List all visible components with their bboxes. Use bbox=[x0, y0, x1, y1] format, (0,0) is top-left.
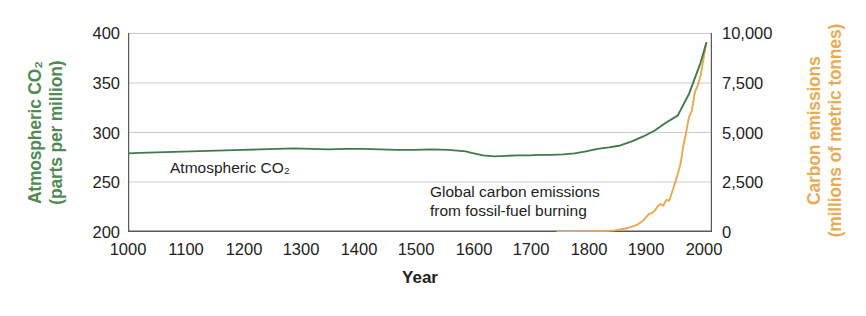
co2-series-annotation: Atmospheric CO₂ bbox=[170, 158, 290, 177]
plot-svg bbox=[128, 33, 712, 232]
left-axis-title: Atmospheric CO₂ (parts per million) bbox=[25, 23, 66, 243]
left-ytick-label-250: 250 bbox=[92, 173, 120, 192]
right-axis-title-line1: Carbon emissions bbox=[804, 18, 825, 244]
xtick-label-2000: 2000 bbox=[669, 240, 739, 259]
emissions-annotation-line1: Global carbon emissions bbox=[430, 182, 600, 201]
plot-area bbox=[128, 33, 712, 232]
co2-emissions-chart-figure: Atmospheric CO₂ (parts per million) Carb… bbox=[0, 0, 866, 316]
right-axis-title: Carbon emissions (millions of metric ton… bbox=[804, 18, 845, 244]
right-ytick-label-2500: 2,500 bbox=[722, 173, 763, 192]
emissions-annotation-line2: from fossil-fuel burning bbox=[430, 201, 600, 220]
x-axis-title: Year bbox=[128, 268, 712, 288]
emissions-series-annotation: Global carbon emissions from fossil-fuel… bbox=[430, 182, 600, 221]
left-axis-title-line1: Atmospheric CO₂ bbox=[25, 23, 46, 243]
left-ytick-label-300: 300 bbox=[92, 124, 120, 143]
right-axis-title-line2: (millions of metric tonnes) bbox=[825, 18, 846, 244]
co2-line bbox=[128, 43, 706, 156]
right-ytick-label-10000: 10,000 bbox=[722, 24, 772, 43]
left-ytick-label-400: 400 bbox=[92, 24, 120, 43]
left-axis-title-line2: (parts per million) bbox=[46, 23, 67, 243]
left-ytick-label-350: 350 bbox=[92, 74, 120, 93]
right-ytick-label-5000: 5,000 bbox=[722, 124, 763, 143]
right-ytick-label-7500: 7,500 bbox=[722, 74, 763, 93]
